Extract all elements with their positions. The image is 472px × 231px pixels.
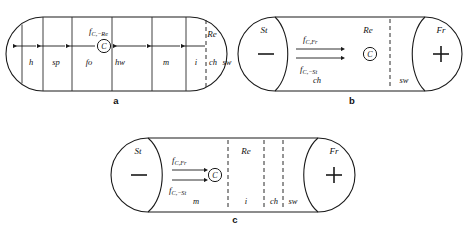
- c-circle-label: C: [101, 42, 107, 51]
- label-m: m: [163, 57, 169, 67]
- label-sp: sp: [52, 57, 60, 67]
- c-circle-label: C: [367, 50, 373, 59]
- panel-a-outline: [6, 17, 227, 91]
- panel-c-outline: [111, 138, 355, 212]
- panel-c-center-marker: C: [208, 168, 221, 181]
- label-re: Re: [240, 146, 251, 156]
- label-fr: Fr: [436, 25, 446, 35]
- label-hw: hw: [115, 57, 125, 67]
- flux-subscript: C,−St: [172, 189, 187, 196]
- figure-canvas: C fC,−Re h sp fo hw m i ch sw Re a: [0, 0, 472, 231]
- flux-subscript: C,Fr: [175, 159, 187, 166]
- panel-c: C fC,Fr fC,−St St Re Fr m i ch sw c: [111, 138, 355, 225]
- label-ch: ch: [209, 57, 217, 67]
- c-circle-label: C: [212, 171, 218, 180]
- panel-a: C fC,−Re h sp fo hw m i ch sw Re a: [6, 17, 232, 106]
- label-m: m: [193, 196, 199, 206]
- panel-a-center-marker: C: [97, 39, 110, 52]
- label-sw: sw: [400, 75, 409, 85]
- panel-b-letter: b: [349, 95, 355, 106]
- label-st: St: [260, 25, 268, 35]
- label-fr: Fr: [329, 146, 339, 156]
- label-re: Re: [206, 29, 217, 39]
- label-st: St: [134, 146, 142, 156]
- panel-c-letter: c: [232, 214, 237, 225]
- label-h: h: [29, 57, 33, 67]
- label-sw: sw: [223, 57, 232, 67]
- flux-subscript: C,Fr: [306, 38, 318, 45]
- label-fo: fo: [86, 57, 93, 67]
- panel-b-center-marker: C: [363, 47, 376, 60]
- label-sw: sw: [289, 196, 298, 206]
- panel-b: C fC,Fr fC,−St St Re Fr ch sw b: [238, 17, 462, 106]
- label-re: Re: [362, 25, 373, 35]
- panel-a-letter: a: [113, 95, 119, 106]
- figure-root: C fC,−Re h sp fo hw m i ch sw Re a: [0, 0, 472, 231]
- label-ch: ch: [270, 196, 278, 206]
- flux-subscript: C,−Re: [92, 30, 109, 37]
- label-ch: ch: [313, 75, 321, 85]
